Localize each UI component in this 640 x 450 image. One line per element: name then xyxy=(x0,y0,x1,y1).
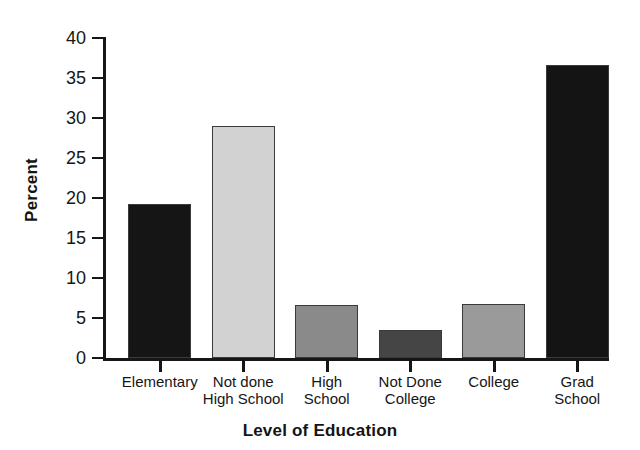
y-axis-line xyxy=(103,37,106,361)
bar xyxy=(212,126,275,358)
y-axis-tick xyxy=(92,357,103,359)
bar xyxy=(379,330,442,358)
bar-chart-figure: Percent 0510152025303540 ElementaryNot d… xyxy=(0,0,640,450)
x-axis-title: Level of Education xyxy=(0,421,640,441)
plot-area: 0510152025303540 ElementaryNot done High… xyxy=(0,0,640,450)
y-axis-tick-label: 25 xyxy=(26,149,86,167)
x-axis-tick-label: Grad School xyxy=(530,373,626,407)
y-axis-tick-label: 15 xyxy=(26,229,86,247)
x-axis-tick-label: College xyxy=(446,373,542,390)
y-axis-tick xyxy=(92,157,103,159)
y-axis-tick xyxy=(92,197,103,199)
y-axis-tick-label: 0 xyxy=(26,349,86,367)
x-axis-tick xyxy=(242,361,245,372)
y-axis-tick xyxy=(92,77,103,79)
y-axis-tick-label: 5 xyxy=(26,309,86,327)
x-axis-line xyxy=(103,358,609,361)
x-axis-tick xyxy=(326,361,329,372)
y-axis-tick xyxy=(92,237,103,239)
bar xyxy=(295,305,358,358)
y-axis-tick xyxy=(92,317,103,319)
y-axis-tick-label: 35 xyxy=(26,69,86,87)
y-axis-tick-label: 20 xyxy=(26,189,86,207)
x-axis-tick-label: High School xyxy=(279,373,375,407)
x-axis-tick-label: Elementary xyxy=(112,373,208,390)
y-axis-tick-label: 30 xyxy=(26,109,86,127)
x-axis-tick-label: Not done High School xyxy=(196,373,292,407)
x-axis-tick xyxy=(409,361,412,372)
x-axis-tick-label: Not Done College xyxy=(363,373,459,407)
y-axis-tick xyxy=(92,37,103,39)
x-axis-tick xyxy=(159,361,162,372)
y-axis-tick xyxy=(92,277,103,279)
bar xyxy=(128,204,191,358)
y-axis-tick-label: 40 xyxy=(26,29,86,47)
y-axis-tick xyxy=(92,117,103,119)
y-axis-tick-label: 10 xyxy=(26,269,86,287)
x-axis-tick xyxy=(576,361,579,372)
x-axis-tick xyxy=(493,361,496,372)
bar xyxy=(462,304,525,358)
bar xyxy=(546,65,609,358)
